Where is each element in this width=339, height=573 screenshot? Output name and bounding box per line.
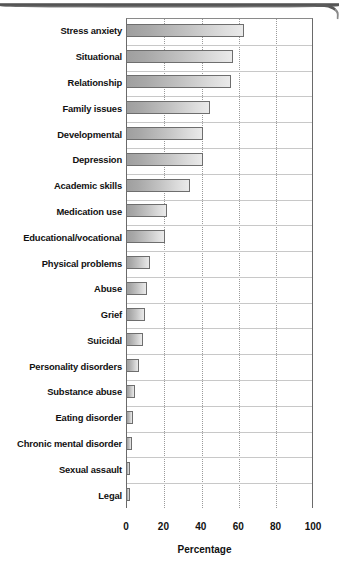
bar-chronic-mental-disorder bbox=[126, 437, 132, 450]
category-label: Abuse bbox=[2, 283, 122, 294]
bar-stress-anxiety bbox=[126, 24, 244, 37]
category-label: Suicidal bbox=[2, 335, 122, 346]
row-separator bbox=[127, 277, 312, 278]
row-separator bbox=[127, 200, 312, 201]
category-label: Sexual assault bbox=[2, 464, 122, 475]
row-separator bbox=[127, 45, 312, 46]
x-tick-40: 40 bbox=[181, 521, 221, 532]
category-label: Educational/vocational bbox=[2, 232, 122, 243]
bar-relationship bbox=[126, 75, 231, 88]
gridline-40 bbox=[202, 19, 203, 508]
category-label: Stress anxiety bbox=[2, 25, 122, 36]
row-separator bbox=[127, 96, 312, 97]
category-label: Physical problems bbox=[2, 258, 122, 269]
gridline-20 bbox=[164, 19, 165, 508]
category-label: Medication use bbox=[2, 206, 122, 217]
plot-area bbox=[126, 18, 313, 508]
bar-legal bbox=[126, 488, 130, 501]
bar-depression bbox=[126, 153, 203, 166]
row-separator bbox=[127, 457, 312, 458]
row-separator bbox=[127, 328, 312, 329]
row-separator bbox=[127, 380, 312, 381]
x-tick-0: 0 bbox=[106, 521, 146, 532]
row-separator bbox=[127, 251, 312, 252]
category-label: Situational bbox=[2, 51, 122, 62]
category-label: Substance abuse bbox=[2, 386, 122, 397]
category-label: Depression bbox=[2, 154, 122, 165]
bar-substance-abuse bbox=[126, 385, 135, 398]
bar-grief bbox=[126, 308, 145, 321]
category-label: Chronic mental disorder bbox=[2, 438, 122, 449]
row-separator bbox=[127, 71, 312, 72]
category-label: Academic skills bbox=[2, 180, 122, 191]
x-tick-100: 100 bbox=[293, 521, 333, 532]
category-label: Eating disorder bbox=[2, 412, 122, 423]
row-separator bbox=[127, 174, 312, 175]
gridline-80 bbox=[276, 19, 277, 508]
bar-academic-skills bbox=[126, 179, 190, 192]
category-label: Personality disorders bbox=[2, 361, 122, 372]
category-label: Developmental bbox=[2, 129, 122, 140]
row-separator bbox=[127, 122, 312, 123]
category-label: Family issues bbox=[2, 103, 122, 114]
x-tick-80: 80 bbox=[256, 521, 296, 532]
row-separator bbox=[127, 148, 312, 149]
bar-educational-vocational bbox=[126, 230, 165, 243]
x-axis-title-text: Percentage bbox=[178, 544, 232, 555]
gridline-60 bbox=[239, 19, 240, 508]
bar-abuse bbox=[126, 282, 147, 295]
bar-suicidal bbox=[126, 333, 143, 346]
category-label: Grief bbox=[2, 309, 122, 320]
row-separator bbox=[127, 225, 312, 226]
category-label: Relationship bbox=[2, 77, 122, 88]
row-separator bbox=[127, 406, 312, 407]
x-tick-60: 60 bbox=[218, 521, 258, 532]
page-edge-artifact-icon bbox=[0, 3, 339, 8]
row-separator bbox=[127, 303, 312, 304]
category-label: Legal bbox=[2, 490, 122, 501]
x-tick-20: 20 bbox=[143, 521, 183, 532]
bar-personality-disorders bbox=[126, 359, 139, 372]
bar-sexual-assault bbox=[126, 462, 130, 475]
horizontal-bar-chart: Stress anxietySituationalRelationshipFam… bbox=[0, 0, 339, 573]
bar-medication-use bbox=[126, 204, 167, 217]
row-separator bbox=[127, 483, 312, 484]
bar-physical-problems bbox=[126, 256, 150, 269]
row-separator bbox=[127, 354, 312, 355]
x-axis-title: Percentage bbox=[0, 544, 339, 555]
bar-situational bbox=[126, 50, 233, 63]
row-separator bbox=[127, 432, 312, 433]
bar-developmental bbox=[126, 127, 203, 140]
bar-family-issues bbox=[126, 101, 210, 114]
bar-eating-disorder bbox=[126, 411, 133, 424]
